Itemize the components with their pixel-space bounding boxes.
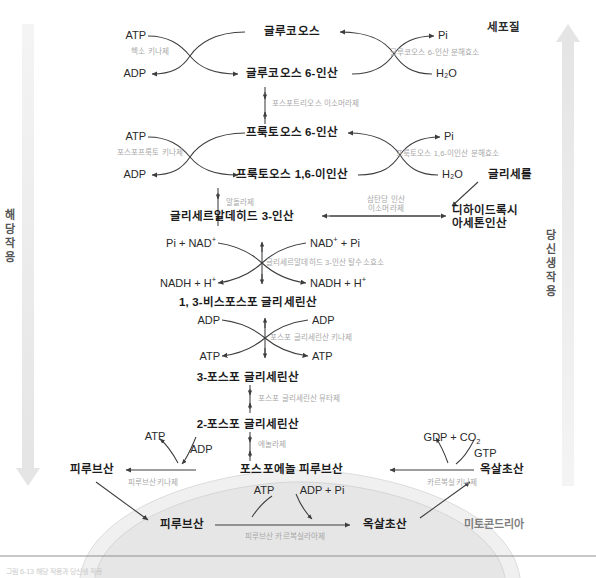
metabolite-dihydroxyacetone-phosphate: 디하이드록시 아세톤인산 [452, 204, 519, 230]
enzyme-triose-phosphate-isomerase: 삼탄당 인산 이소머라제 [367, 196, 405, 213]
metabolite-oxaloacetate-cytosol: 옥살초산 [480, 463, 524, 476]
metabolite-3-phosphoglycerate: 3-포스포 글리세린산 [197, 371, 300, 384]
nadh-h-right-text: NADH + H [310, 277, 362, 289]
background-shapes-layer [0, 0, 596, 578]
cofactor-adp-pi-mitochondria: ADP + Pi [300, 484, 345, 497]
cofactor-gtp: GTP [474, 447, 497, 460]
figure-caption: 그림 6-13 해당 작용과 당신생 작용 [6, 566, 102, 576]
enzyme-hexokinase: 헥소 키나제 [131, 48, 169, 57]
cofactor-atp-1: ATP [125, 29, 146, 42]
cofactor-atp-5: ATP [145, 430, 166, 443]
cofactor-adp-3: ADP [197, 314, 220, 327]
pi-nad-text: Pi + NAD [166, 237, 212, 249]
side-label-glycolysis: 해당작용 [3, 208, 17, 264]
cofactor-pi-nad: Pi + NAD+ [166, 237, 216, 250]
enzyme-phosphotriose-isomerase: 포스포트리오스 이소머라제 [272, 100, 359, 109]
metabolite-glyceraldehyde-3-phosphate: 글리세르알데히드 3-인산 [170, 210, 295, 223]
nad-pi-text: NAD [310, 237, 333, 249]
gluconeogenesis-direction-arrow [556, 24, 580, 486]
cofactor-adp-1: ADP [123, 67, 146, 80]
cofactor-gdp-co2: GDP + CO2 [424, 431, 481, 444]
enzyme-aldolase: 알돌라제 [226, 199, 254, 208]
compartment-label-mitochondria: 미토콘드리아 [464, 518, 524, 531]
metabolite-pyruvate-mitochondria: 피루브산 [160, 518, 204, 531]
cofactor-adp-2: ADP [123, 168, 146, 181]
side-label-gluconeogenesis: 당신생작용 [544, 228, 558, 298]
nad-pi-rest: + Pi [338, 237, 360, 249]
enzyme-pepck: 카르복실키나제 [427, 479, 477, 488]
cofactor-atp-4: ATP [312, 350, 333, 363]
cofactor-water-1: H₂O [436, 67, 457, 80]
enzyme-pyruvate-kinase: 피루브산키나제 [128, 479, 178, 488]
glycolysis-direction-arrow [16, 24, 40, 486]
cofactor-nadh-h-right: NADH + H+ [310, 277, 366, 290]
enzyme-phosphoglycerate-kinase: 포스포 글리세린산 키나제 [270, 334, 353, 343]
compartment-label-cytosol: 세포질 [487, 21, 520, 34]
metabolite-2-phosphoglycerate: 2-포스포 글리세린산 [197, 418, 300, 431]
nadh-h-right-superscript: + [362, 275, 366, 284]
enzyme-glucose-6-phosphatase: 글루코오스 6-인산 분해효소 [390, 49, 479, 58]
gdp-co2-subscript: 2 [476, 437, 480, 446]
side-label-gluconeogenesis-text: 당신생작용 [546, 228, 556, 298]
cofactor-water-2: H₂O [442, 168, 463, 181]
cofactor-atp-2: ATP [125, 130, 146, 143]
metabolite-oxaloacetate-mitochondria: 옥살초산 [363, 518, 407, 531]
enzyme-gapdh: 글리세르알데히드 3-인산 탈수소효소 [266, 259, 384, 268]
cofactor-pi-2: Pi [444, 130, 454, 143]
metabolite-pyruvate-cytosol: 피루브산 [70, 463, 114, 476]
metabolite-glucose: 글루코오스 [264, 25, 320, 38]
nadh-h-left-text: NADH + H [160, 277, 212, 289]
metabolite-phosphoenolpyruvate: 포스포에놀 피루브산 [240, 463, 343, 476]
gdp-co2-text: GDP + CO [424, 431, 477, 443]
tpi-line-2: 이소머라제 [367, 205, 405, 214]
dhap-line-2: 아세톤인산 [452, 217, 519, 230]
nadh-h-left-superscript: + [212, 275, 216, 284]
enzyme-phosphofructokinase: 포스포프룩토 키나제 [117, 149, 183, 158]
metabolic-pathway-diagram: 세포질 미토콘드리아 해당작용 당신생작용 글루코오스 글루코오스 6-인산 프… [0, 0, 596, 578]
side-label-glycolysis-text: 해당작용 [5, 208, 15, 264]
cofactor-adp-5: ADP [190, 443, 213, 456]
pi-nad-superscript: + [212, 235, 216, 244]
dhap-line-1: 디하이드록시 [452, 204, 519, 217]
cofactor-adp-4: ADP [312, 314, 335, 327]
metabolite-glucose-6-phosphate: 글루코오스 6-인산 [246, 67, 337, 80]
metabolite-1-3-bisphosphoglycerate: 1, 3-비스포스포 글리세린산 [179, 296, 317, 309]
enzyme-phosphoglycerate-mutase: 포스포 글리세린산 뮤타제 [258, 395, 341, 404]
reaction-arrows-layer [0, 0, 596, 578]
enzyme-enolase: 에놀라제 [258, 441, 286, 450]
metabolite-glycerol: 글리세롤 [488, 168, 532, 181]
enzyme-fructose-1-6-bisphosphatase: 프룩토오스 1,6-이인산 분해효소 [396, 150, 499, 159]
cofactor-atp-mitochondria: ATP [254, 484, 275, 497]
metabolite-fructose-6-phosphate: 프룩토오스 6-인산 [246, 126, 337, 139]
enzyme-pyruvate-carboxylase: 피루브산 카르복실라아제 [245, 533, 325, 542]
cofactor-nadh-h-left: NADH + H+ [160, 277, 216, 290]
cofactor-nad-pi: NAD+ + Pi [310, 237, 360, 250]
metabolite-fructose-1-6-bisphosphate: 프룩토오스 1,6-이인산 [236, 168, 348, 181]
cofactor-atp-3: ATP [199, 350, 220, 363]
cofactor-pi-1: Pi [438, 29, 448, 42]
